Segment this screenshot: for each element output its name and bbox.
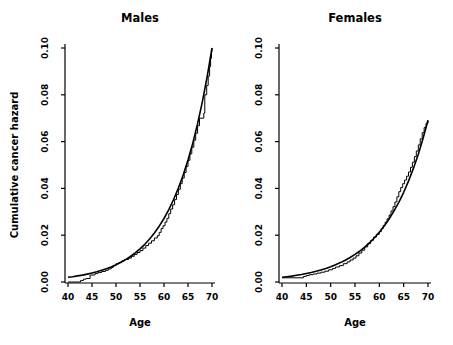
y-tick-label: 0.06 [40,130,50,152]
curves-females [282,120,428,278]
x-tick-label: 70 [206,292,219,302]
plot-canvas: Males Age Cumulative cancer hazard 40455… [0,0,453,345]
axes-females: 404550556065700.000.020.040.060.080.10 [254,37,434,302]
cumulative-hazard-figure: Males Age Cumulative cancer hazard 40455… [0,0,453,345]
x-tick-label: 55 [349,292,362,302]
curves-males [68,48,212,282]
x-tick-label: 70 [422,292,435,302]
x-tick-label: 60 [158,292,171,302]
y-tick-label: 0.02 [40,224,50,246]
panel-males: Males Age Cumulative cancer hazard 40455… [9,11,218,328]
x-tick-label: 65 [397,292,410,302]
x-tick-label: 65 [182,292,195,302]
x-axis-label-females: Age [344,317,366,328]
panel-females: Females Age 404550556065700.000.020.040.… [254,11,434,328]
x-tick-label: 40 [276,292,289,302]
y-tick-label: 0.04 [254,177,264,199]
y-tick-label: 0.00 [254,271,264,293]
panel-title-males: Males [121,11,159,25]
x-tick-label: 60 [373,292,386,302]
y-tick-label: 0.08 [40,84,50,106]
y-tick-label: 0.04 [40,177,50,199]
x-tick-label: 50 [110,292,123,302]
x-tick-label: 45 [86,292,99,302]
smooth-curve [68,48,212,277]
panel-title-females: Females [328,11,382,25]
y-tick-label: 0.08 [254,84,264,106]
x-axis-label-males: Age [129,317,151,328]
step-curve [68,48,212,282]
y-tick-label: 0.00 [40,271,50,293]
smooth-curve [282,120,428,277]
y-tick-label: 0.06 [254,130,264,152]
y-tick-label: 0.10 [40,37,50,59]
x-tick-label: 45 [300,292,313,302]
x-tick-label: 55 [134,292,147,302]
x-tick-label: 40 [62,292,75,302]
axes-males: 404550556065700.000.020.040.060.080.10 [40,37,218,302]
y-tick-label: 0.10 [254,37,264,59]
y-axis-label: Cumulative cancer hazard [9,92,20,239]
x-tick-label: 50 [324,292,337,302]
y-tick-label: 0.02 [254,224,264,246]
